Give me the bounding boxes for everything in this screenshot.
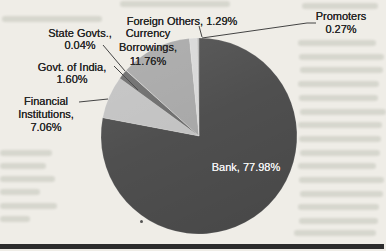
callout-line: Institutions, (18, 108, 74, 121)
callout-govt-of-india: Govt. of India, 1.60% (38, 61, 106, 85)
callout-line: Bank, 77.98% (212, 161, 281, 174)
callout-line: 1.60% (38, 73, 106, 85)
callout-line: Financial (18, 95, 74, 108)
callout-line: Govt. of India, (38, 61, 106, 73)
callout-state-govts: State Govts., 0.04% (48, 27, 112, 51)
label-bank-inside-slice: Bank, 77.98% (212, 161, 281, 174)
page-bottom-rule (0, 244, 384, 249)
callout-line: State Govts., (48, 27, 112, 39)
callout-financial-institutions: Financial Institutions, 7.06% (18, 95, 74, 134)
callout-line: Borrowings, (119, 40, 177, 54)
callout-line: 0.04% (48, 39, 112, 51)
callout-line: 0.27% (316, 23, 367, 36)
callout-line: 11.76% (119, 54, 177, 68)
ink-speck (140, 220, 143, 223)
callout-currency-borrowings: Currency Borrowings, 11.76% (119, 26, 177, 68)
callout-line: Promoters (316, 10, 367, 23)
callout-promoters: Promoters 0.27% (316, 10, 367, 36)
leader-financial-institutions (79, 99, 108, 102)
callout-line: Currency (119, 26, 177, 40)
callout-line: 7.06% (18, 121, 74, 134)
